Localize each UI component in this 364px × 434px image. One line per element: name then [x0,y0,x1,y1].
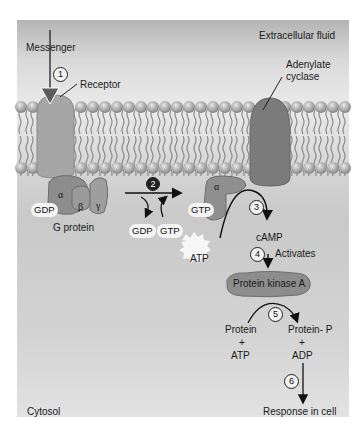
gtp-incoming-label: GTP [157,224,183,238]
receptor-leader [60,84,77,97]
gtp-bind-arrow [161,197,166,217]
gdp-bound-label: GDP [31,203,58,217]
step-4-badge: 4 [250,247,265,262]
receptor-label: Receptor [80,79,121,91]
step-2-badge: 2 [146,177,160,191]
phosphorylated-protein-label: Protein- P [288,324,332,336]
step-3-badge: 3 [249,200,264,215]
alpha-label: α [58,189,63,201]
beta-label: β [78,201,83,213]
adenylate-label-line2: cyclase [286,71,319,83]
step-6-badge: 6 [284,374,299,389]
step-5-badge: 5 [268,307,283,322]
substrate-atp-label: ATP [231,350,250,362]
messenger-label: Messenger [26,42,75,54]
activates-label: Activates [275,248,316,260]
alpha-active-label: α [214,181,219,193]
g-protein-label: G protein [53,222,94,234]
extracellular-fluid-label: Extracellular fluid [259,30,335,42]
adenylate-cyclase-protein [250,98,290,186]
camp-label: cAMP [256,232,283,244]
adp-label: ADP [292,350,313,362]
step-1-badge: 1 [53,67,68,82]
protein-kinase-a-label: Protein kinase A [233,278,305,290]
atp-label: ATP [190,253,209,265]
substrate-protein-label: Protein [225,324,257,336]
cytosol-label: Cytosol [27,406,60,418]
receptor-protein [37,95,74,178]
response-label: Response in cell [263,406,336,418]
adenylate-label-line1: Adenylate [286,59,330,71]
gamma-label: γ [96,200,100,212]
gdp-release-arrow [141,197,148,216]
product-plus-label: + [299,337,305,349]
gdp-released-label: GDP [129,224,156,238]
substrate-plus-label: + [239,337,245,349]
gtp-bound-label: GTP [188,203,214,217]
